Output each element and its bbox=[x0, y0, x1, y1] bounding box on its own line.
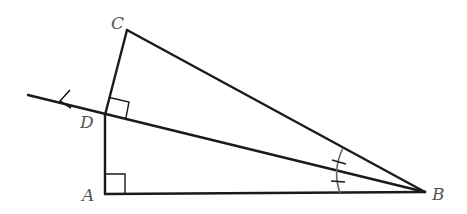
angle-tick-lower bbox=[331, 181, 345, 182]
label-c: C bbox=[111, 13, 124, 33]
ray-bd bbox=[28, 95, 425, 192]
geometry-diagram: C D A B bbox=[0, 0, 467, 214]
segment-ab bbox=[105, 192, 425, 194]
label-a: A bbox=[80, 185, 94, 205]
segment-cd bbox=[105, 30, 127, 115]
label-d: D bbox=[79, 112, 94, 132]
label-b: B bbox=[431, 184, 445, 204]
segment-bc bbox=[127, 30, 425, 192]
right-angle-mark-a bbox=[105, 174, 125, 194]
